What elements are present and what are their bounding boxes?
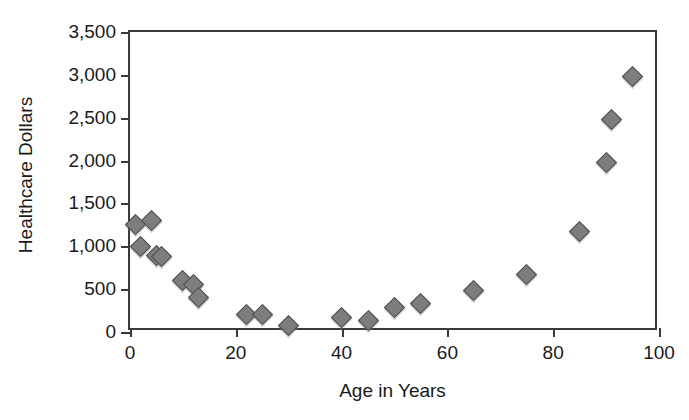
y-axis-tick: [121, 203, 130, 205]
y-axis-tick-label: 2,000: [68, 150, 116, 172]
y-axis-tick-label: 0: [105, 321, 116, 343]
data-point: [463, 279, 484, 300]
x-axis-title: Age in Years: [128, 380, 657, 402]
x-axis-tick-label: 0: [125, 342, 136, 364]
x-axis-tick: [447, 328, 449, 337]
y-axis-title: Healthcare Dollars: [8, 5, 44, 345]
data-point: [357, 309, 378, 330]
data-point: [141, 210, 162, 231]
data-point: [252, 304, 273, 325]
data-point: [622, 66, 643, 87]
x-axis-tick-label: 60: [437, 342, 458, 364]
y-axis-tick: [121, 289, 130, 291]
y-axis-tick: [121, 246, 130, 248]
x-axis-tick-label: 80: [543, 342, 564, 364]
x-axis-tick: [236, 328, 238, 337]
plot-inner: 05001,0001,5002,0002,5003,0003,500020406…: [130, 32, 655, 328]
y-axis-tick-label: 2,500: [68, 107, 116, 129]
y-axis-tick: [121, 332, 130, 334]
x-axis-tick-label: 20: [225, 342, 246, 364]
y-axis-tick-label: 3,500: [68, 21, 116, 43]
data-point: [384, 297, 405, 318]
y-axis-tick: [121, 118, 130, 120]
y-axis-tick-label: 1,000: [68, 235, 116, 257]
data-point: [601, 109, 622, 130]
x-axis-tick-label: 40: [331, 342, 352, 364]
x-axis-tick: [659, 328, 661, 337]
y-axis-tick: [121, 32, 130, 34]
y-axis-tick-label: 500: [84, 278, 116, 300]
x-axis-tick-label: 100: [643, 342, 675, 364]
chart-page: Healthcare Dollars 05001,0001,5002,0002,…: [0, 0, 689, 420]
y-axis-tick: [121, 161, 130, 163]
data-point: [278, 315, 299, 336]
y-axis-tick-label: 3,000: [68, 64, 116, 86]
data-point: [516, 264, 537, 285]
data-point: [331, 307, 352, 328]
x-axis-tick: [130, 328, 132, 337]
data-point: [410, 293, 431, 314]
plot-area: 05001,0001,5002,0002,5003,0003,500020406…: [128, 30, 657, 330]
x-axis-tick: [553, 328, 555, 337]
data-point: [569, 221, 590, 242]
data-point: [595, 152, 616, 173]
y-axis-tick-label: 1,500: [68, 192, 116, 214]
y-axis-tick: [121, 75, 130, 77]
x-axis-tick: [342, 328, 344, 337]
